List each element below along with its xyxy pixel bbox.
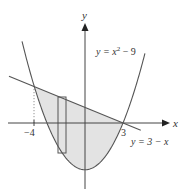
tick-label-minus-4: −4 [24, 127, 35, 138]
area-between-curves-figure: y x −4 3 y = x2 − 9 y = 3 − x [0, 0, 184, 193]
x-axis-label: x [172, 117, 178, 129]
diagram-canvas: y x −4 3 y = x2 − 9 y = 3 − x [0, 0, 184, 193]
parabola-label-tail: − 9 [120, 46, 136, 57]
y-axis-arrow-icon [82, 23, 89, 31]
shaded-region [34, 87, 123, 170]
parabola-label-main: y = x [95, 46, 117, 57]
line-equation-label: y = 3 − x [130, 136, 169, 147]
x-axis-arrow-icon [162, 120, 170, 127]
parabola-equation-label: y = x2 − 9 [95, 45, 136, 57]
y-axis-label: y [81, 9, 87, 21]
tick-label-3: 3 [121, 127, 126, 138]
